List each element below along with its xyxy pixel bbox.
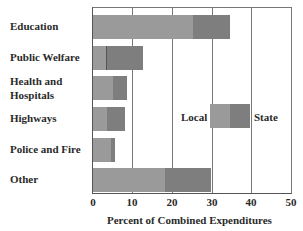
category-label: Police and Fire: [10, 143, 81, 156]
bar-police-fire: [93, 138, 115, 162]
bar-other: [93, 168, 211, 192]
bar-health: [93, 76, 127, 100]
category-label: Education: [10, 20, 58, 33]
category-label: Public Welfare: [10, 51, 80, 64]
x-tick: 40: [246, 196, 257, 208]
bar-local: [93, 46, 107, 70]
x-axis-label: Percent of Combined Expenditures: [107, 214, 272, 226]
legend-state-label: State: [254, 111, 278, 123]
bar-local: [93, 76, 113, 100]
category-label: Health and: [10, 75, 62, 88]
legend-local-swatch: [210, 104, 230, 128]
category-label: Hospitals: [10, 89, 54, 102]
gridline-50: [291, 8, 292, 193]
bar-local: [93, 15, 193, 39]
legend-swatch: [210, 104, 250, 128]
bar-local: [93, 138, 111, 162]
bar-highways: [93, 107, 125, 131]
category-label: Other: [10, 173, 38, 186]
bar-local: [93, 168, 165, 192]
x-tick: 0: [90, 196, 96, 208]
bar-state: [165, 168, 211, 192]
bar-education: [93, 15, 230, 39]
x-tick: 30: [207, 196, 218, 208]
bar-state: [193, 15, 230, 39]
legend-local-label: Local: [181, 111, 207, 123]
legend-state-swatch: [230, 104, 250, 128]
bar-state: [111, 138, 115, 162]
x-tick: 50: [286, 196, 297, 208]
category-label: Highways: [10, 112, 56, 125]
bar-local: [93, 107, 107, 131]
gridline-40: [251, 8, 252, 193]
bar-state: [107, 46, 143, 70]
x-tick: 20: [167, 196, 178, 208]
bar-state: [113, 76, 127, 100]
bar-state: [107, 107, 125, 131]
x-tick: 10: [127, 196, 138, 208]
bar-public-welfare: [93, 46, 143, 70]
plot-area: [92, 7, 292, 194]
